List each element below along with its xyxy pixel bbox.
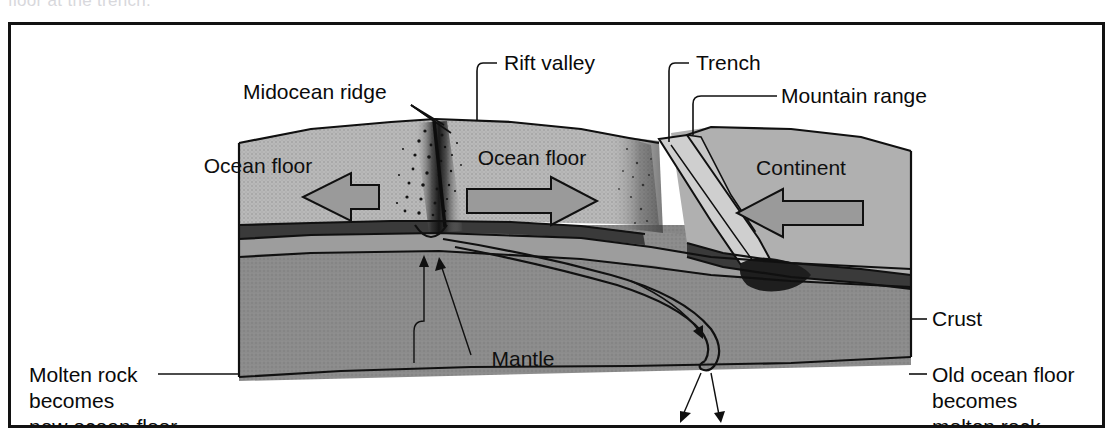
label-trench: Trench — [696, 51, 761, 74]
downwelling-arrowhead-2 — [714, 411, 725, 423]
label-continent: Continent — [756, 156, 846, 179]
trench-shading — [611, 135, 663, 233]
label-old-ocean-floor-line3: molten rock — [932, 415, 1041, 425]
label-mountain-range: Mountain range — [781, 84, 927, 107]
downwelling-arrow-2 — [711, 373, 719, 415]
label-crust: Crust — [932, 307, 982, 330]
downwelling-arrowhead-1 — [680, 411, 691, 423]
leader-rift-valley — [477, 63, 497, 121]
label-ocean-floor-left: Ocean floor — [204, 154, 313, 177]
tectonics-diagram: Midocean ridge Rift valley Trench Mounta… — [11, 25, 1102, 425]
label-molten-rock-line3: new ocean floor — [29, 415, 177, 425]
figure-frame: Midocean ridge Rift valley Trench Mounta… — [8, 22, 1105, 428]
label-rift-valley: Rift valley — [504, 51, 596, 74]
cutoff-caption-fragment: floor at the trench. — [8, 0, 151, 11]
downwelling-arrow-1 — [683, 373, 701, 415]
leader-trench — [669, 63, 689, 142]
figure-root: floor at the trench. — [0, 0, 1113, 438]
label-ocean-floor-right: Ocean floor — [478, 146, 587, 169]
label-old-ocean-floor-line2: becomes — [932, 389, 1017, 412]
label-midocean-ridge: Midocean ridge — [243, 80, 387, 103]
label-old-ocean-floor-line1: Old ocean floor — [932, 363, 1074, 386]
label-molten-rock-line1: Molten rock — [29, 363, 138, 386]
label-mantle: Mantle — [491, 347, 554, 370]
label-molten-rock-line2: becomes — [29, 389, 114, 412]
